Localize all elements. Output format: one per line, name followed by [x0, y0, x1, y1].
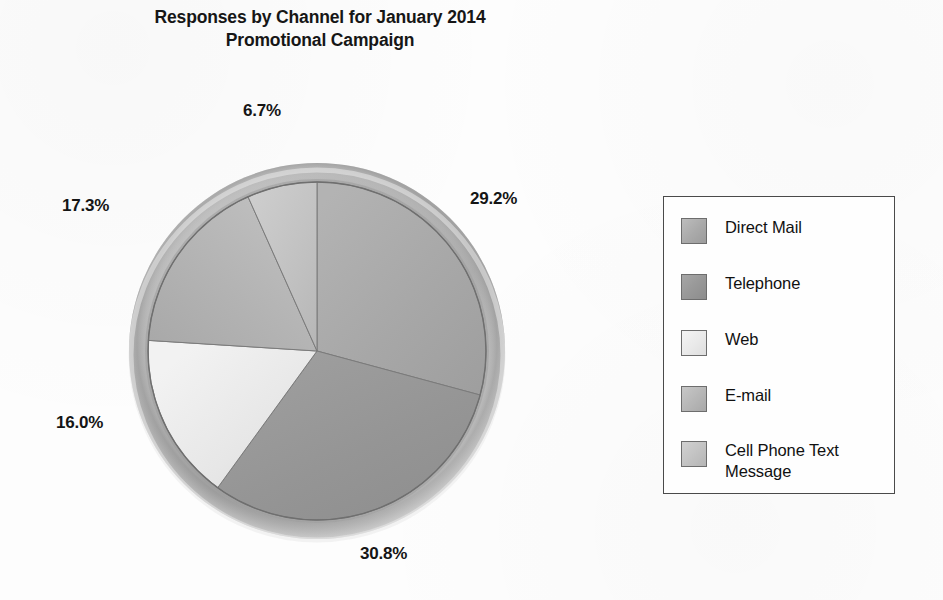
legend-swatch-icon-web — [681, 330, 707, 356]
legend-item-email[interactable]: E-mail — [681, 385, 771, 412]
legend-swatch-icon-direct-mail — [681, 218, 707, 244]
legend-label-telephone: Telephone — [725, 273, 800, 294]
chart-title-line-2: Promotional Campaign — [0, 29, 640, 52]
legend-item-direct-mail[interactable]: Direct Mail — [681, 217, 802, 244]
legend-swatch-icon-email — [681, 386, 707, 412]
legend-item-web[interactable]: Web — [681, 329, 758, 356]
pie-chart — [127, 142, 517, 554]
pie-label-email: 17.3% — [62, 196, 109, 216]
legend-swatch-icon-telephone — [681, 274, 707, 300]
chart-legend: Direct Mail Telephone Web E-mail Cell Ph… — [663, 196, 895, 494]
chart-page: Responses by Channel for January 2014 Pr… — [0, 0, 943, 600]
legend-swatch-icon-cell-phone-text-message — [681, 441, 707, 467]
chart-title: Responses by Channel for January 2014 Pr… — [0, 6, 640, 52]
chart-title-line-1: Responses by Channel for January 2014 — [155, 7, 486, 27]
legend-item-cell-phone-text-message[interactable]: Cell Phone Text Message — [681, 440, 890, 481]
pie-label-cell-phone-text: 6.7% — [243, 101, 281, 121]
legend-label-web: Web — [725, 329, 758, 350]
legend-label-email: E-mail — [725, 385, 771, 406]
pie-label-web: 16.0% — [56, 413, 103, 433]
pie-label-direct-mail: 29.2% — [470, 189, 517, 209]
pie-label-telephone: 30.8% — [360, 544, 407, 564]
legend-item-telephone[interactable]: Telephone — [681, 273, 800, 300]
pie-chart-graphic — [127, 142, 517, 554]
legend-label-cell-phone-text-message: Cell Phone Text Message — [725, 440, 890, 481]
legend-label-direct-mail: Direct Mail — [725, 217, 802, 238]
